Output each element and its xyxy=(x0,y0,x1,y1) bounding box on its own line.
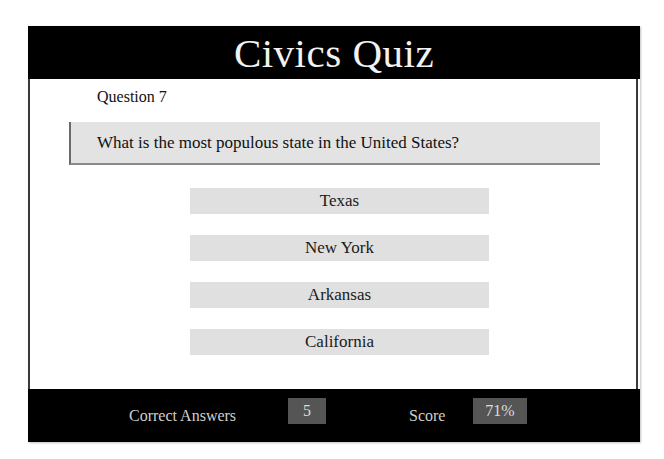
correct-answers-value: 5 xyxy=(288,398,326,424)
answer-button-california[interactable]: California xyxy=(190,329,489,355)
question-text: What is the most populous state in the U… xyxy=(97,133,459,153)
score-label: Score xyxy=(409,389,445,442)
answer-label: Arkansas xyxy=(308,285,371,305)
answer-button-texas[interactable]: Texas xyxy=(190,188,489,214)
answer-label: California xyxy=(305,332,374,352)
answer-label: Texas xyxy=(320,191,359,211)
question-number: Question 7 xyxy=(97,88,167,106)
question-box: What is the most populous state in the U… xyxy=(69,122,600,165)
answer-button-arkansas[interactable]: Arkansas xyxy=(190,282,489,308)
answer-label: New York xyxy=(305,238,374,258)
header-bar: Civics Quiz xyxy=(28,26,640,79)
question-panel: Question 7 What is the most populous sta… xyxy=(28,79,638,389)
correct-answers-label: Correct Answers xyxy=(129,389,236,442)
answer-button-new-york[interactable]: New York xyxy=(190,235,489,261)
footer-bar: Correct Answers 5 Score 71% xyxy=(28,389,640,442)
quiz-window: Civics Quiz Question 7 What is the most … xyxy=(28,26,640,442)
quiz-title: Civics Quiz xyxy=(234,33,434,74)
score-value: 71% xyxy=(473,398,527,424)
